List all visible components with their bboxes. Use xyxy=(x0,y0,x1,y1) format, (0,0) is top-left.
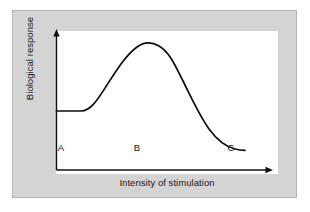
point-label-a: A xyxy=(54,142,68,153)
y-axis-arrow-icon xyxy=(53,29,59,37)
point-label-b: B xyxy=(130,142,144,153)
point-label-c: C xyxy=(224,142,238,153)
x-axis-arrow-icon xyxy=(266,167,274,173)
plot-svg xyxy=(13,11,298,199)
figure-root: Biological response Intensity of stimula… xyxy=(0,0,310,212)
y-axis-title: Biological response xyxy=(24,0,35,119)
figure-panel: Biological response Intensity of stimula… xyxy=(12,10,297,198)
x-axis-title: Intensity of stimulation xyxy=(56,177,278,188)
biological-response-curve xyxy=(57,43,246,150)
